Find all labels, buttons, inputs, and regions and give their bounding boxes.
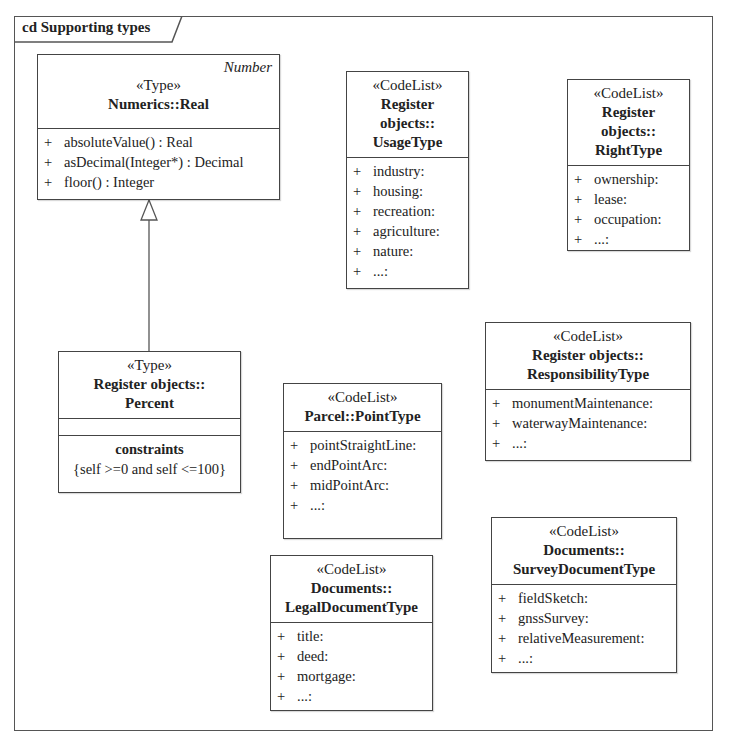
values-compartment: +fieldSketch: +gnssSurvey: +relativeMeas… [492,585,676,672]
class-header: «CodeList» Parcel::PointType [284,384,441,432]
class-header: «CodeList» Documents:: SurveyDocumentTyp… [492,518,676,585]
operation-row: +absoluteValue() : Real [44,132,273,152]
class-stereotype: «CodeList» [351,76,464,95]
class-stereotype: «CodeList» [288,388,437,407]
literal-row: +...: [498,648,670,668]
literal-row: +housing: [353,181,462,201]
class-name-line: Register objects:: [490,346,686,365]
codelist-point-type[interactable]: «CodeList» Parcel::PointType +pointStrai… [283,383,442,539]
class-name: Numerics::Real [42,95,275,114]
generalization-arrowhead-icon [141,200,157,220]
class-name-line: Register [351,95,464,114]
literal-row: +fieldSketch: [498,588,670,608]
constraints-compartment: constraints {self >=0 and self <=100} [59,436,240,483]
class-name-line: Register [572,103,685,122]
class-name-line: LegalDocumentType [275,598,428,617]
literal-row: +occupation: [574,209,683,229]
codelist-legal-document-type[interactable]: «CodeList» Documents:: LegalDocumentType… [270,555,433,711]
literal-row: +gnssSurvey: [498,608,670,628]
class-stereotype: «Type» [63,356,236,375]
constraints-title: constraints [61,439,238,459]
codelist-survey-document-type[interactable]: «CodeList» Documents:: SurveyDocumentTyp… [491,517,677,673]
class-percent[interactable]: «Type» Register objects:: Percent constr… [58,351,241,493]
class-name-line: ResponsibilityType [490,365,686,384]
class-name-line: Documents:: [496,541,672,560]
literal-row: +ownership: [574,169,683,189]
class-header: «CodeList» Documents:: LegalDocumentType [271,556,432,623]
class-stereotype: «CodeList» [496,522,672,541]
class-name-line: objects:: [351,114,464,133]
literal-row: +endPointArc: [290,455,435,475]
class-header: Number «Type» Numerics::Real [38,55,279,129]
literal-row: +agriculture: [353,221,462,241]
values-compartment: +industry: +housing: +recreation: +agric… [347,158,468,285]
class-stereotype: «Type» [42,76,275,95]
class-name-line: Register objects:: [63,375,236,394]
literal-row: +pointStraightLine: [290,435,435,455]
constraint-text: {self >=0 and self <=100} [61,459,238,479]
literal-row: +deed: [277,646,426,666]
literal-row: +monumentMaintenance: [492,393,684,413]
class-header: «CodeList» Register objects:: Responsibi… [486,323,690,390]
class-keyword: Number [224,58,272,77]
literal-row: +industry: [353,161,462,181]
class-name-line: SurveyDocumentType [496,560,672,579]
class-name-line: Percent [63,394,236,413]
values-compartment: +title: +deed: +mortgage: +...: [271,623,432,710]
codelist-right-type[interactable]: «CodeList» Register objects:: RightType … [567,79,690,251]
operations-compartment: +absoluteValue() : Real +asDecimal(Integ… [38,129,279,196]
literal-row: +relativeMeasurement: [498,628,670,648]
literal-row: +title: [277,626,426,646]
literal-row: +mortgage: [277,666,426,686]
literal-row: +midPointArc: [290,475,435,495]
codelist-responsibility-type[interactable]: «CodeList» Register objects:: Responsibi… [485,322,691,461]
literal-row: +...: [574,229,683,249]
attributes-compartment [59,419,240,436]
literal-row: +lease: [574,189,683,209]
class-name-line: RightType [572,141,685,160]
values-compartment: +monumentMaintenance: +waterwayMaintenan… [486,390,690,457]
class-name-line: objects:: [572,122,685,141]
class-header: «CodeList» Register objects:: UsageType [347,72,468,158]
class-stereotype: «CodeList» [490,327,686,346]
class-name-line: UsageType [351,133,464,152]
literal-row: +recreation: [353,201,462,221]
codelist-usage-type[interactable]: «CodeList» Register objects:: UsageType … [346,71,469,289]
literal-row: +...: [492,433,684,453]
values-compartment: +pointStraightLine: +endPointArc: +midPo… [284,432,441,519]
operation-row: +asDecimal(Integer*) : Decimal [44,152,273,172]
literal-row: +nature: [353,241,462,261]
class-name-line: Parcel::PointType [288,407,437,426]
class-stereotype: «CodeList» [572,84,685,103]
class-numerics-real[interactable]: Number «Type» Numerics::Real +absoluteVa… [37,54,280,200]
operation-row: +floor() : Integer [44,172,273,192]
literal-row: +...: [277,686,426,706]
class-name-line: Documents:: [275,579,428,598]
class-header: «CodeList» Register objects:: RightType [568,80,689,166]
class-header: «Type» Register objects:: Percent [59,352,240,419]
literal-row: +waterwayMaintenance: [492,413,684,433]
values-compartment: +ownership: +lease: +occupation: +...: [568,166,689,253]
literal-row: +...: [353,261,462,281]
literal-row: +...: [290,495,435,515]
class-stereotype: «CodeList» [275,560,428,579]
